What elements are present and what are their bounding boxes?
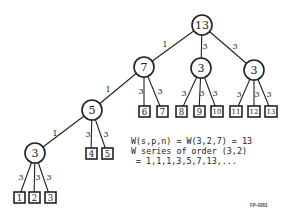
- edge-label: 3: [85, 130, 90, 139]
- node-7: 7: [134, 57, 154, 77]
- leaf-5: 5: [102, 148, 113, 159]
- leaf-8: 8: [176, 106, 187, 117]
- leaf-label: 9: [197, 107, 202, 117]
- edge-label: 3: [181, 89, 186, 98]
- leaf-label: 2: [32, 193, 37, 203]
- node-label: 3: [251, 64, 258, 77]
- leaf-label: 13: [267, 108, 276, 116]
- formula-line-1: W(s,p,n) = W(3,2,7) = 13: [131, 136, 252, 146]
- edge-label: 3: [35, 173, 40, 182]
- edge-label: 3: [138, 87, 143, 96]
- leaf-13: 13: [265, 106, 277, 117]
- leaf-label: 8: [179, 107, 184, 117]
- edge-label: 1: [105, 85, 110, 94]
- node-3-middle: 3: [191, 58, 211, 78]
- figure-id: FP-4363: [250, 203, 267, 208]
- leaf-9: 9: [194, 106, 205, 117]
- leaf-label: 11: [232, 108, 241, 116]
- leaf-7: 7: [157, 106, 168, 117]
- node-3-left: 3: [25, 143, 45, 163]
- formula-line-2: W series of order (3,2): [131, 146, 247, 156]
- edge-label: 3: [202, 42, 207, 51]
- node-13: 13: [192, 15, 212, 35]
- edge-label: 3: [232, 42, 237, 51]
- edge-label: 3: [199, 89, 204, 98]
- leaf-label: 3: [48, 193, 53, 203]
- tree-diagram: 1 3 3 1 3 3 3 3 3 3 3 3 1 3 3 3 3 3 13: [0, 0, 287, 218]
- edge-label: 3: [212, 89, 217, 98]
- edge-label: 3: [236, 90, 241, 99]
- node-label: 3: [198, 62, 205, 75]
- edge-label: 1: [162, 40, 167, 49]
- node-5: 5: [82, 100, 102, 120]
- leaf-label: 4: [89, 149, 94, 159]
- edge-label: 1: [52, 129, 57, 138]
- node-3-right: 3: [244, 60, 264, 80]
- leaf-2: 2: [29, 192, 40, 203]
- edge-label: 3: [46, 173, 51, 182]
- leaf-10: 10: [211, 106, 223, 117]
- edge-label: 3: [18, 173, 23, 182]
- leaf-label: 6: [142, 107, 147, 117]
- leaf-label: 1: [17, 193, 22, 203]
- leaf-11: 11: [230, 106, 242, 117]
- tree-svg: 1 3 3 1 3 3 3 3 3 3 3 3 1 3 3 3 3 3 13: [0, 0, 287, 218]
- node-label: 5: [89, 104, 96, 117]
- leaf-3: 3: [45, 192, 56, 203]
- edge-label: 3: [254, 90, 259, 99]
- leaf-4: 4: [86, 148, 97, 159]
- formula-line-3: = 1,1,1,3,5,7,13,...: [136, 156, 237, 166]
- leaf-label: 5: [105, 149, 110, 159]
- edge-label: 3: [157, 87, 162, 96]
- leaf-label: 12: [250, 108, 259, 116]
- leaf-6: 6: [139, 106, 150, 117]
- edge-label: 3: [103, 130, 108, 139]
- node-label: 7: [141, 61, 148, 74]
- leaf-label: 10: [213, 108, 222, 116]
- node-label: 3: [32, 147, 39, 160]
- edge-label: 3: [266, 90, 271, 99]
- leaf-1: 1: [14, 192, 25, 203]
- node-label: 13: [195, 19, 209, 32]
- leaf-12: 12: [248, 106, 260, 117]
- leaf-label: 7: [160, 107, 165, 117]
